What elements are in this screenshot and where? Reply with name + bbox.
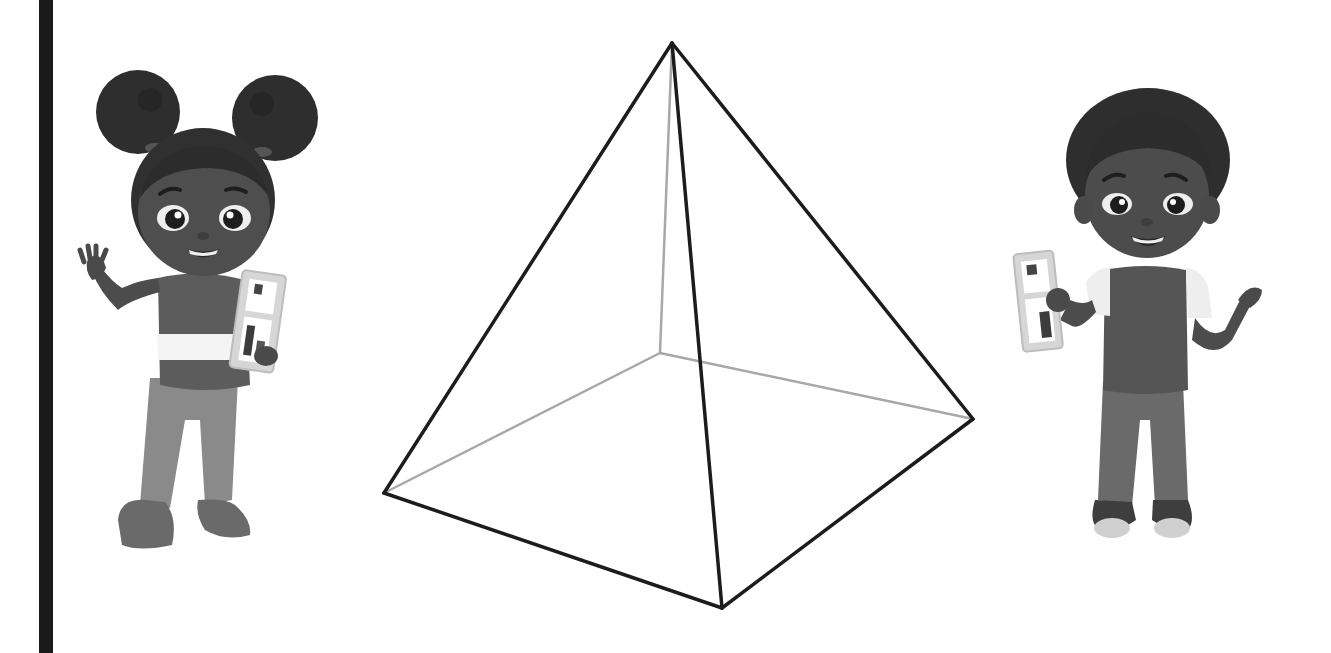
girl-character xyxy=(80,70,318,549)
visible-edges xyxy=(384,43,973,608)
boy-character xyxy=(1013,88,1262,538)
worksheet-illustration xyxy=(0,0,1331,653)
square-pyramid-wireframe xyxy=(384,43,973,608)
